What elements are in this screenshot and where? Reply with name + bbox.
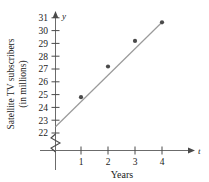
x-tick-label: 1 [79, 157, 84, 167]
data-point [160, 20, 164, 24]
y-axis-title-line1: Satellite TV subscribers [6, 38, 16, 129]
y-tick-label: 30 [39, 26, 49, 36]
x-tick-label: 2 [106, 157, 111, 167]
y-axis-arrowhead [53, 11, 59, 18]
data-point [133, 39, 137, 43]
data-point [106, 64, 110, 68]
y-tick-label: 28 [39, 52, 49, 62]
x-axis-ticks: 1 2 3 4 [79, 147, 165, 168]
x-axis-title: Years [111, 169, 133, 180]
y-axis-variable-label: y [61, 11, 66, 21]
y-tick-label: 24 [39, 103, 49, 113]
y-tick-label: 29 [39, 39, 49, 49]
y-tick-label: 22 [39, 128, 49, 138]
y-axis-ticks: 22 23 24 25 26 27 28 29 30 31 [39, 13, 60, 138]
trend-line [56, 22, 163, 127]
y-tick-label: 23 [39, 116, 49, 126]
y-tick-label: 27 [39, 64, 49, 74]
chart-container: y t 22 23 24 25 26 27 28 29 [0, 0, 209, 182]
x-tick-label: 4 [160, 157, 165, 167]
y-tick-label: 26 [39, 77, 49, 87]
x-axis-variable-label: t [198, 146, 201, 156]
x-tick-label: 3 [133, 157, 138, 167]
y-tick-label: 25 [39, 90, 49, 100]
x-axis-arrowhead [188, 148, 195, 154]
y-axis-title-line2: (in millions) [18, 60, 29, 107]
y-tick-label: 31 [39, 13, 49, 23]
data-point [79, 95, 83, 99]
satellite-tv-subscribers-scatter-chart: y t 22 23 24 25 26 27 28 29 [0, 0, 209, 182]
